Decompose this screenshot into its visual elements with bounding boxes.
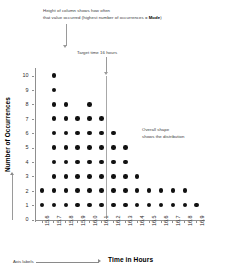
data-point-dot [52, 102, 57, 107]
x-axis-tick [53, 221, 54, 224]
data-point-dot [147, 203, 152, 208]
y-axis-tick [32, 133, 35, 134]
data-point-dot [147, 188, 152, 193]
data-point-dot [52, 160, 57, 165]
data-point-dot [52, 174, 57, 179]
data-point-dot [87, 116, 92, 121]
x-axis-tick-label: 16.1 [103, 215, 109, 226]
x-axis-tick [161, 221, 162, 224]
data-point-dot [64, 174, 69, 179]
data-point-dot [75, 160, 80, 165]
y-axis-tick-label: 2 [20, 188, 29, 194]
data-point-dot [87, 160, 92, 165]
x-axis-tick [137, 221, 138, 224]
x-axis-tick-label: 15.7 [56, 215, 62, 226]
y-axis-tick [32, 176, 35, 177]
data-point-dot [75, 116, 80, 121]
data-point-dot [64, 102, 69, 107]
y-axis-tick-label: 10 [20, 72, 29, 78]
data-point-dot [111, 174, 116, 179]
y-axis-tick-label: 8 [20, 101, 29, 107]
y-axis-tick-label: 4 [20, 159, 29, 165]
data-point-dot [123, 203, 128, 208]
y-axis-tick [32, 76, 35, 77]
data-point-dot [52, 116, 57, 121]
data-point-dot [64, 160, 69, 165]
data-point-dot [52, 203, 57, 208]
data-point-dot [111, 203, 116, 208]
y-axis-tick-label: 7 [20, 116, 29, 122]
x-axis-tick-label: 16.3 [127, 215, 133, 226]
data-point-dot [75, 188, 80, 193]
data-point-dot [123, 145, 128, 150]
x-axis-tick [101, 221, 102, 224]
data-point-dot [111, 160, 116, 165]
data-point-dot [75, 174, 80, 179]
data-point-dot [183, 203, 188, 208]
y-axis-tick [32, 205, 35, 206]
x-axis-tick-label: 16.6 [163, 215, 169, 226]
data-point-dot [123, 188, 128, 193]
y-axis-tick [32, 104, 35, 105]
data-point-dot [87, 102, 92, 107]
x-axis-tick-label: 16.7 [175, 215, 181, 226]
x-axis-tick-label: 15.9 [80, 215, 86, 226]
x-axis-tick-label: 15.6 [44, 215, 50, 226]
x-axis-tick-label: 16.0 [92, 215, 98, 226]
data-point-dot [111, 188, 116, 193]
x-axis-tick-label: 16.8 [187, 215, 193, 226]
data-point-dot [64, 203, 69, 208]
data-point-dot [52, 131, 57, 136]
data-point-dot [99, 188, 104, 193]
y-axis-tick [32, 90, 35, 91]
data-point-dot [75, 145, 80, 150]
y-axis-tick [32, 119, 35, 120]
data-point-dot [52, 73, 57, 78]
x-axis-tick-label: 15.8 [68, 215, 74, 226]
x-axis-tick [149, 221, 150, 224]
y-axis-tick-label: 0 [20, 216, 29, 222]
data-point-dot [87, 174, 92, 179]
x-axis-tick [172, 221, 173, 224]
x-axis-tick-label: 16.9 [199, 215, 205, 226]
data-point-dot [64, 131, 69, 136]
data-point-dot [99, 145, 104, 150]
data-point-dot [99, 131, 104, 136]
y-axis-tick [32, 191, 35, 192]
x-axis-tick [77, 221, 78, 224]
data-point-dot [99, 174, 104, 179]
dot-plot-figure: Height of column shows how often that va… [0, 0, 232, 273]
x-axis-tick [65, 221, 66, 224]
y-axis-tick-label: 6 [20, 130, 29, 136]
x-axis-tick [42, 221, 43, 224]
data-point-dot [87, 131, 92, 136]
data-point-dot [111, 131, 116, 136]
data-point-dot [52, 145, 57, 150]
data-point-dot [123, 160, 128, 165]
x-axis-tick [113, 221, 114, 224]
data-point-dot [123, 174, 128, 179]
data-point-dot [159, 188, 164, 193]
y-axis-tick-label: 5 [20, 144, 29, 150]
data-point-dot [111, 145, 116, 150]
data-point-dot [75, 203, 80, 208]
data-point-dot [52, 188, 57, 193]
y-axis-tick [32, 220, 35, 221]
data-point-dot [87, 145, 92, 150]
data-point-dot [52, 88, 57, 93]
x-axis-tick [196, 221, 197, 224]
y-axis-tick [32, 148, 35, 149]
data-point-dot [87, 203, 92, 208]
data-point-dot [171, 203, 176, 208]
data-point-dot [64, 188, 69, 193]
y-axis-tick-label: 3 [20, 173, 29, 179]
x-axis-tick [89, 221, 90, 224]
y-axis-tick-label: 9 [20, 87, 29, 93]
x-axis-tick-label: 16.4 [139, 215, 145, 226]
data-point-dot [135, 174, 140, 179]
y-axis-tick [32, 162, 35, 163]
plot-area: 01234567891015.615.715.815.916.016.116.2… [0, 0, 232, 273]
x-axis-tick-label: 16.5 [151, 215, 157, 226]
data-point-dot [194, 203, 199, 208]
data-point-dot [183, 188, 188, 193]
